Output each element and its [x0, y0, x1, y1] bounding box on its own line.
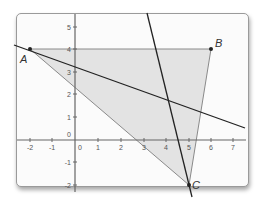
svg-text:0: 0	[78, 144, 82, 151]
svg-text:-2: -2	[27, 144, 33, 151]
svg-text:1: 1	[96, 144, 100, 151]
svg-text:5: 5	[67, 24, 71, 31]
svg-text:4: 4	[67, 46, 71, 53]
svg-text:2: 2	[67, 91, 71, 98]
point-c-label: C	[192, 179, 200, 191]
x-tick-labels: -2 -1 0 1 2 3 4 5 6 7	[27, 144, 235, 151]
point-a	[28, 47, 32, 51]
svg-text:-2: -2	[65, 182, 71, 189]
svg-text:5: 5	[187, 144, 191, 151]
svg-text:-1: -1	[49, 144, 55, 151]
svg-text:1: 1	[67, 114, 71, 121]
point-a-label: A	[19, 53, 27, 65]
coordinate-plane: -2 -1 0 1 2 3 4 5 6 7 5 4 3 2 1 0 -1 -2 …	[0, 0, 260, 214]
point-b	[209, 47, 213, 51]
svg-text:3: 3	[67, 69, 71, 76]
svg-text:-1: -1	[65, 159, 71, 166]
svg-text:2: 2	[119, 144, 123, 151]
point-c	[187, 183, 191, 187]
svg-text:3: 3	[142, 144, 146, 151]
point-b-label: B	[215, 37, 222, 49]
svg-text:0: 0	[67, 131, 71, 138]
svg-text:4: 4	[164, 144, 168, 151]
svg-text:6: 6	[209, 144, 213, 151]
svg-text:7: 7	[231, 144, 235, 151]
